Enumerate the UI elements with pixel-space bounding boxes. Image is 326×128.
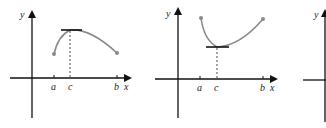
graph-2: y x a c b [155,8,276,118]
tick-label-c: c [214,82,219,93]
tick-label-b: b [114,81,119,92]
x-axis-label: x [123,81,129,92]
curve [201,18,263,47]
tick-label-c: c [68,81,73,92]
y-axis-label: y [313,9,319,20]
endpoint-dot [261,17,265,21]
y-axis-label: y [165,8,171,19]
graph-1: y x a c b [10,9,130,118]
y-axis-label: y [19,9,25,20]
endpoint-dot [199,16,203,20]
tick-label-b: b [260,82,265,93]
x-axis-label: x [269,82,275,93]
tick-label-a: a [197,82,202,93]
graph-3: y [303,9,326,122]
tick-label-a: a [51,81,56,92]
figure: y x a c b y x a c b y [0,0,326,128]
curve [54,30,117,54]
endpoint-dot [115,51,119,55]
endpoint-dot [52,52,56,56]
